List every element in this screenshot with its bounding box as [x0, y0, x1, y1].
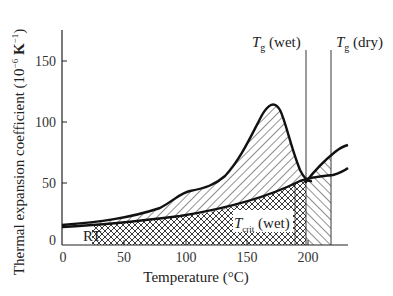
y-tick-150: 150	[35, 54, 56, 69]
y-tick-0: 0	[49, 233, 56, 248]
crosshatch-area-2	[295, 179, 306, 245]
x-tick-150: 150	[237, 250, 258, 265]
x-tick-100: 100	[176, 250, 197, 265]
tg-dry-label: Tg (dry)	[336, 34, 383, 53]
x-tick-0: 0	[60, 250, 67, 265]
x-axis-label: Temperature (°C)	[143, 269, 248, 286]
x-tick-50: 50	[117, 250, 131, 265]
tg-band-hatch	[306, 157, 331, 245]
rt-label: RT	[83, 228, 101, 244]
tg-wet-label: Tg (wet)	[252, 34, 301, 53]
chart: 150 100 50 0 0 50 100 150 200 Tg (wet) T…	[0, 0, 393, 296]
y-axis-label: Thermal expansion coefficient (10−6 K−1)	[10, 29, 28, 275]
y-tick-50: 50	[42, 176, 56, 191]
y-tick-100: 100	[35, 115, 56, 130]
x-tick-200: 200	[298, 250, 319, 265]
